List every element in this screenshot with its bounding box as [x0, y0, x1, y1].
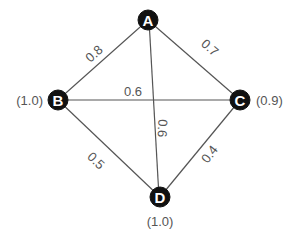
weight-b-d: 0.5	[84, 149, 107, 172]
node-d-label: D	[155, 189, 166, 206]
node-a: A	[138, 10, 158, 30]
weight-b-c: 0.6	[124, 84, 142, 99]
node-b-label: B	[53, 92, 64, 109]
node-b: B	[48, 90, 68, 110]
weight-a-c: 0.7	[198, 36, 221, 59]
edge-a-c	[148, 20, 240, 100]
node-c-label: C	[235, 92, 246, 109]
edge-b-d	[58, 100, 160, 197]
weight-a-d: 0.6	[155, 119, 171, 138]
node-b-value: (1.0)	[16, 93, 43, 108]
node-c-value: (0.9)	[256, 93, 283, 108]
graph-diagram: 0.8 0.7 0.6 0.6 0.5 0.4 A B C D (1.0) (0…	[0, 0, 301, 233]
node-d: D	[150, 187, 170, 207]
weight-a-b: 0.8	[82, 42, 105, 65]
node-c: C	[230, 90, 250, 110]
edge-a-d	[149, 20, 159, 197]
edge-c-d	[160, 100, 240, 197]
node-a-label: A	[143, 12, 154, 29]
node-d-value: (1.0)	[147, 214, 174, 229]
